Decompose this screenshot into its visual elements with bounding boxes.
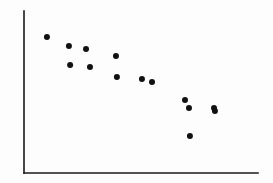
data-point — [182, 97, 188, 103]
data-point — [114, 74, 120, 80]
data-point — [67, 62, 73, 68]
data-point — [149, 79, 155, 85]
data-point — [87, 64, 93, 70]
data-point — [139, 76, 145, 82]
data-point — [186, 105, 192, 111]
axes-group — [24, 11, 258, 173]
data-point — [66, 43, 72, 49]
data-point — [113, 53, 119, 59]
chart-canvas — [0, 0, 273, 183]
data-point — [212, 108, 218, 114]
data-point — [83, 46, 89, 52]
data-points-group — [44, 34, 218, 139]
data-point — [187, 133, 193, 139]
data-point — [44, 34, 50, 40]
scatter-plot-figure — [0, 0, 273, 183]
